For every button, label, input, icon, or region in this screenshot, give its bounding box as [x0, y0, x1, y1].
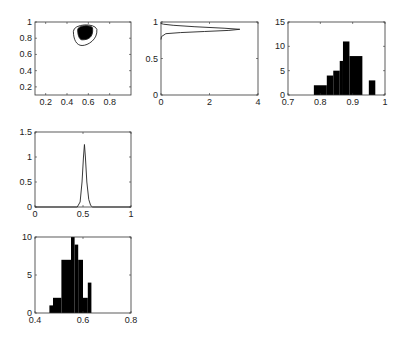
- histogram-bar: [75, 245, 79, 313]
- x-tick-label: 0.4: [61, 97, 74, 107]
- y-tick-label: 0: [153, 90, 158, 100]
- x-tick-label: 0.2: [39, 97, 52, 107]
- histogram-bar: [88, 283, 92, 313]
- y-tick-label: 0.8: [19, 33, 32, 43]
- x-tick-label: 0.8: [314, 97, 327, 107]
- y-tick-label: 0: [27, 308, 32, 318]
- subplot-marginal-density-x: 00.5100.511.5: [19, 127, 133, 219]
- y-tick-label: 15: [275, 17, 285, 27]
- x-tick-label: 0: [32, 209, 37, 219]
- subplot-histogram-upper: 0.70.80.91051015: [275, 17, 388, 107]
- x-tick-label: 0.6: [77, 315, 90, 325]
- y-tick-label: 1: [27, 152, 32, 162]
- histogram-bar: [71, 237, 75, 313]
- x-tick-label: 0.8: [103, 97, 116, 107]
- histogram-bar: [49, 305, 53, 313]
- y-tick-label: 0.5: [145, 54, 158, 64]
- y-tick-label: 5: [27, 270, 32, 280]
- y-tick-label: 1: [153, 17, 158, 27]
- x-tick-label: 2: [207, 97, 212, 107]
- density-curve: [161, 23, 240, 39]
- x-tick-label: 4: [255, 97, 260, 107]
- contour-inner: [78, 26, 93, 40]
- x-tick-label: 1: [128, 209, 133, 219]
- subplot-marginal-density-y: 02400.51: [145, 17, 260, 107]
- x-tick-label: 0.9: [346, 97, 359, 107]
- x-tick-label: 0.6: [82, 97, 95, 107]
- histogram-bar: [333, 71, 339, 95]
- y-tick-label: 0: [27, 202, 32, 212]
- figure-canvas: 0.20.40.60.80.20.40.60.8102400.510.70.80…: [0, 0, 404, 346]
- histogram-bar: [53, 298, 61, 313]
- histogram-bar: [343, 41, 349, 95]
- subplot-histogram-lower: 0.40.60.80510: [22, 232, 137, 325]
- density-curve: [35, 145, 131, 208]
- x-tick-label: 0.8: [125, 315, 138, 325]
- y-tick-label: 0.6: [19, 49, 32, 59]
- histogram-bars: [49, 237, 91, 313]
- histogram-bar: [369, 80, 375, 95]
- y-tick-label: 10: [22, 232, 32, 242]
- subplot-joint-contour: 0.20.40.60.80.20.40.60.81: [19, 17, 131, 107]
- histogram-bar: [340, 61, 343, 95]
- y-tick-label: 1.5: [19, 127, 32, 137]
- histogram-bar: [78, 260, 83, 313]
- y-tick-label: 1: [27, 17, 32, 27]
- y-tick-label: 0.2: [19, 82, 32, 92]
- histogram-bar: [83, 298, 88, 313]
- x-tick-label: 0.5: [77, 209, 90, 219]
- x-tick-label: 1: [382, 97, 387, 107]
- x-tick-label: 0: [158, 97, 163, 107]
- histogram-bar: [349, 56, 362, 95]
- y-tick-label: 0.4: [19, 66, 32, 76]
- histogram-bar: [61, 260, 71, 313]
- histogram-bars: [314, 41, 375, 95]
- y-tick-label: 0.5: [19, 177, 32, 187]
- y-tick-label: 10: [275, 41, 285, 51]
- y-tick-label: 0: [280, 90, 285, 100]
- histogram-bar: [327, 76, 333, 95]
- y-tick-label: 5: [280, 66, 285, 76]
